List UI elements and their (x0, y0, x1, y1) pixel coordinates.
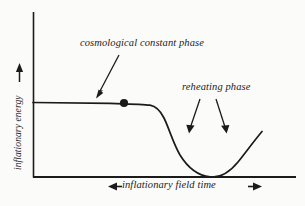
inflationary-potential-figure: cosmological constant phase reheating ph… (0, 0, 305, 206)
y-axis-label: inflationary energy (14, 88, 24, 178)
cosmological-constant-phase-label: cosmological constant phase (80, 38, 204, 49)
x-axis-right-arrow-icon (248, 183, 262, 191)
reheating-arrow-right (216, 99, 229, 134)
cosmological-constant-arrow (96, 55, 119, 99)
field-position-dot (120, 99, 128, 107)
x-axis-left-arrow-icon (108, 183, 122, 191)
y-axis-up-arrow-icon (16, 63, 23, 82)
potential-curve (33, 103, 262, 178)
reheating-phase-label: reheating phase (182, 82, 250, 93)
figure-canvas (0, 0, 305, 206)
x-axis-label: inflationary field time (122, 180, 216, 191)
reheating-arrow-left (186, 99, 200, 134)
